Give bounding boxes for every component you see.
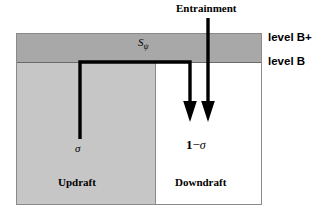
minus-operator: − [193,137,200,152]
updraft-label: Updraft [58,177,96,188]
s-psi-label: Sψ [138,37,148,51]
s-psi-subscript: ψ [144,42,149,51]
level-b-plus-label: level B+ [268,32,312,44]
sigma-label: σ [75,143,80,154]
downdraft-label: Downdraft [175,177,226,188]
one-minus-sigma-label: 1−σ [186,138,206,151]
figure-canvas: Entrainment level B+ level B Sψ σ 1−σ Up… [0,0,336,217]
sigma-symbol: σ [200,138,206,152]
entrainment-label: Entrainment [176,3,237,14]
level-b-label: level B [268,56,305,68]
